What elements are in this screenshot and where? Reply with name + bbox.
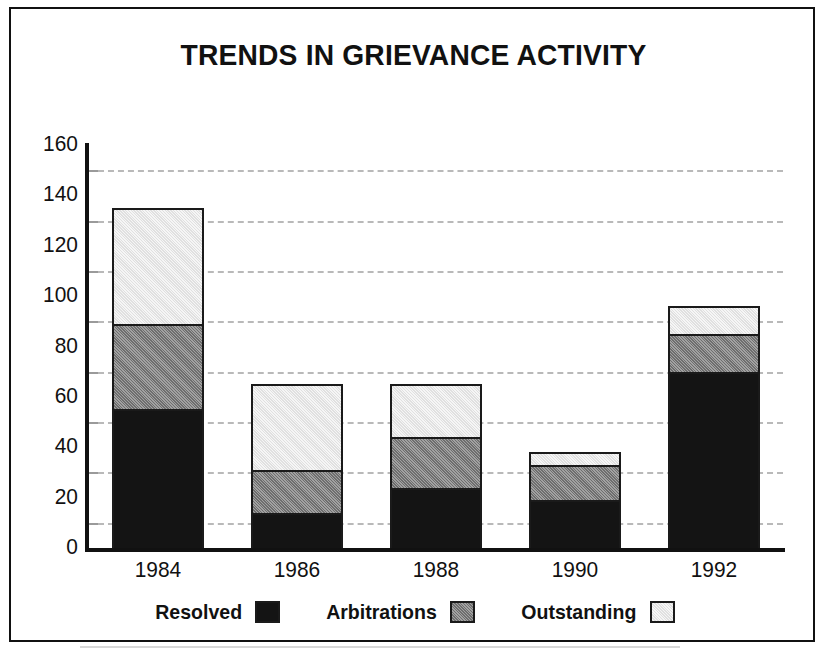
legend-item-resolved: Resolved	[152, 600, 279, 624]
chart-figure: TRENDS IN GRIEVANCE ACTIVITY 02040608010…	[0, 0, 827, 653]
legend-label: Resolved	[156, 600, 243, 624]
bar-segment-outstanding	[112, 208, 204, 324]
bar-segment-outstanding	[251, 384, 343, 470]
bar-segment-resolved	[668, 372, 760, 548]
plot-area	[88, 145, 783, 548]
y-axis-label: 140	[21, 181, 78, 207]
x-axis-label-1990: 1990	[508, 557, 641, 583]
bar-segment-arbitrations	[529, 465, 621, 500]
bar-1984	[112, 208, 204, 548]
y-axis-label: 40	[21, 433, 78, 459]
y-axis-label: 20	[21, 484, 78, 510]
bar-1986	[251, 384, 343, 548]
chart-title: TRENDS IN GRIEVANCE ACTIVITY	[25, 38, 802, 72]
y-axis-label: 0	[21, 534, 78, 560]
bar-segment-arbitrations	[390, 437, 482, 487]
x-axis-label-1992: 1992	[647, 557, 780, 583]
bar-segment-outstanding	[529, 452, 621, 465]
x-axis-label-1984: 1984	[91, 557, 224, 583]
bar-1990	[529, 452, 621, 548]
y-axis-label: 160	[21, 131, 78, 157]
y-axis-label: 100	[21, 282, 78, 308]
bar-segment-outstanding	[390, 384, 482, 437]
bar-segment-outstanding	[668, 306, 760, 334]
legend-swatch-arbitrations	[450, 601, 475, 623]
bar-segment-arbitrations	[112, 324, 204, 410]
legend-label: Outstanding	[521, 600, 636, 624]
bar-segment-arbitrations	[251, 470, 343, 513]
bar-segment-arbitrations	[668, 334, 760, 372]
legend-swatch-outstanding	[650, 601, 675, 623]
legend-label: Arbitrations	[326, 600, 437, 624]
bar-segment-resolved	[251, 513, 343, 548]
y-axis-labels: 020406080100120140160	[12, 0, 78, 653]
y-axis-label: 120	[21, 232, 78, 258]
y-axis-label: 60	[21, 383, 78, 409]
x-axis-label-1988: 1988	[369, 557, 502, 583]
legend-item-outstanding: Outstanding	[517, 600, 675, 624]
bar-segment-resolved	[390, 488, 482, 548]
chart-legend: ResolvedArbitrationsOutstanding	[0, 600, 827, 624]
bar-1992	[668, 306, 760, 548]
bar-segment-resolved	[529, 500, 621, 548]
bar-1988	[390, 384, 482, 548]
scan-artifact	[80, 646, 680, 648]
bar-segment-resolved	[112, 409, 204, 548]
legend-item-arbitrations: Arbitrations	[322, 600, 475, 624]
legend-swatch-resolved	[255, 601, 280, 623]
x-axis-line	[85, 548, 785, 552]
y-axis-label: 80	[21, 333, 78, 359]
x-axis-label-1986: 1986	[230, 557, 363, 583]
